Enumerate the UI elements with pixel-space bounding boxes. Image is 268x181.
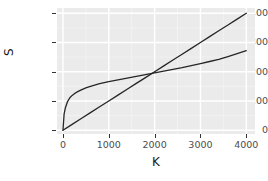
y-axis-title: S <box>2 48 16 56</box>
x-tick-mark <box>63 134 64 138</box>
x-tick-label: 2000 <box>132 139 178 150</box>
y-tick-mark <box>52 101 56 102</box>
x-tick-mark <box>109 134 110 138</box>
x-tick-label: 3000 <box>177 139 223 150</box>
chart-figure: S 0100200300400 01000200030004000 K <box>0 0 268 181</box>
series-line-concave <box>63 51 246 131</box>
y-tick-mark <box>52 72 56 73</box>
x-tick-mark <box>200 134 201 138</box>
x-axis-title: K <box>57 155 255 169</box>
x-tick-mark <box>246 134 247 138</box>
y-tick-mark <box>52 42 56 43</box>
x-tick-label: 1000 <box>86 139 132 150</box>
x-tick-label: 0 <box>40 139 86 150</box>
y-tick-mark <box>52 130 56 131</box>
x-tick-mark <box>155 134 156 138</box>
plot-panel <box>57 8 255 134</box>
x-tick-label: 4000 <box>223 139 268 150</box>
series-line-linear <box>63 13 246 130</box>
data-series-layer <box>57 8 255 134</box>
y-tick-mark <box>52 13 56 14</box>
